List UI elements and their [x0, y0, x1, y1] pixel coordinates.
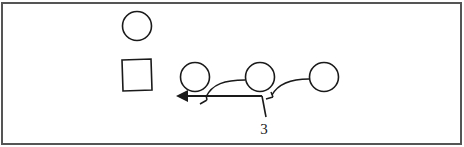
curved-arrow-c-to-b: [272, 79, 309, 95]
curved-arrow-b-to-a: [206, 80, 245, 97]
circle-c: [310, 63, 339, 92]
diagram-canvas: 3: [0, 0, 464, 147]
arrowhead-icon: [176, 90, 188, 102]
curved-arrowhead-c-icon: [266, 92, 273, 99]
top-circle: [123, 12, 152, 41]
label-3: 3: [260, 121, 268, 137]
square-shape: [122, 59, 152, 91]
frame-border: [2, 3, 461, 144]
diagram-frame: 3: [0, 0, 464, 147]
circle-a: [181, 63, 210, 92]
circle-b: [246, 63, 275, 92]
leader-line: [262, 96, 266, 117]
